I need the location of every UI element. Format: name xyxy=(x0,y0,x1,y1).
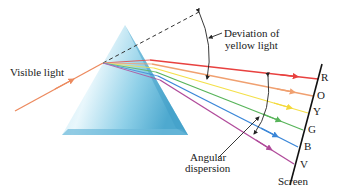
label-ray-g: G xyxy=(308,123,316,135)
label-angular-line2: dispersion xyxy=(185,162,230,174)
label-deviation-line1: Deviation of xyxy=(224,27,279,39)
label-screen: Screen xyxy=(278,175,308,187)
label-ray-o: O xyxy=(317,89,325,101)
prism-diagram xyxy=(0,0,338,192)
label-ray-v: V xyxy=(300,158,308,170)
deviation-arc xyxy=(199,12,222,79)
prism xyxy=(62,25,188,135)
label-deviation-line2: yellow light xyxy=(225,39,278,51)
label-ray-y: Y xyxy=(313,105,321,117)
label-ray-b: B xyxy=(304,140,311,152)
label-ray-r: R xyxy=(321,71,328,83)
label-visible-light: Visible light xyxy=(10,66,64,78)
dispersed-rays xyxy=(150,60,318,164)
undeviated-dashed-line xyxy=(103,12,199,63)
